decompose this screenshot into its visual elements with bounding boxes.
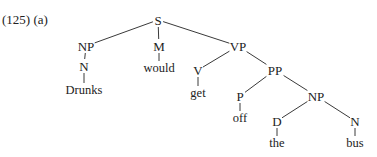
- tree-edges: [0, 0, 377, 157]
- tree-leaf-word: off: [233, 112, 247, 125]
- tree-node-m: M: [153, 40, 165, 53]
- tree-node-n: N: [350, 115, 359, 128]
- tree-node-pp: PP: [268, 64, 282, 77]
- tree-node-np: NP: [308, 90, 325, 103]
- tree-branch-line: [325, 102, 350, 118]
- tree-branch-line: [284, 76, 308, 91]
- tree-node-vp: VP: [230, 40, 247, 53]
- tree-leaf-word: Drunks: [66, 84, 103, 97]
- tree-branch-line: [282, 102, 307, 118]
- tree-branch-line: [203, 51, 229, 67]
- tree-node-n: N: [79, 60, 88, 73]
- tree-leaf-word: the: [269, 137, 284, 150]
- tree-leaf-word: bus: [346, 137, 363, 150]
- tree-node-np: NP: [78, 40, 95, 53]
- tree-branch-line: [247, 52, 267, 65]
- tree-leaf-word: get: [190, 87, 205, 100]
- tree-branch-line: [245, 76, 266, 92]
- tree-branch-line: [163, 22, 229, 44]
- tree-node-s: S: [154, 14, 161, 27]
- tree-leaf-word: would: [143, 62, 174, 75]
- tree-node-p: P: [236, 90, 243, 103]
- tree-branch-line: [95, 22, 153, 43]
- tree-node-d: D: [272, 115, 281, 128]
- tree-node-v: V: [193, 64, 202, 77]
